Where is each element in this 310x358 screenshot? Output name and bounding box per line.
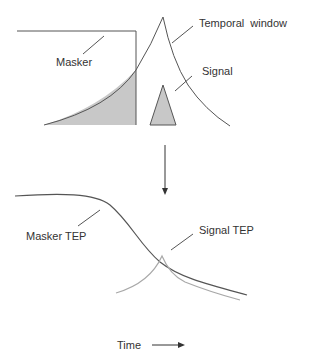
masker-tep-leader-line [78, 210, 100, 226]
temporal-window-label: Temporal window [199, 18, 287, 29]
masker-leader-line [83, 36, 104, 54]
signal-tep-label: Signal TEP [199, 225, 254, 236]
signal-tep-leader-line [171, 234, 193, 250]
time-arrow-head-icon [178, 342, 185, 348]
temporal-window-diagram [0, 0, 310, 358]
masker-label: Masker [56, 57, 92, 68]
down-arrow-head-icon [162, 188, 168, 195]
signal-label: Signal [202, 66, 233, 77]
masker-tep-label: Masker TEP [26, 231, 86, 242]
masker-window-overlap-fill [44, 70, 136, 125]
window-leader-line [172, 26, 193, 43]
signal-tep-curve [116, 256, 240, 300]
signal-triangle [150, 85, 176, 125]
masker-tep-curve [15, 194, 247, 295]
time-axis-label: Time [117, 340, 141, 351]
